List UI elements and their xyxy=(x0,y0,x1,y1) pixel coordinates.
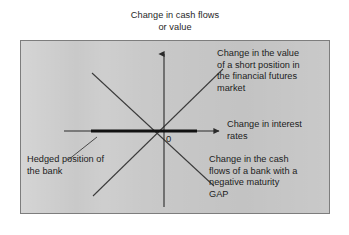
origin-label: 0 xyxy=(166,134,171,144)
plot-panel: 0 Change in the value of a short positio… xyxy=(20,40,330,214)
annotation-hedged-line-2: the bank xyxy=(27,166,104,178)
annotation-futures-line-2: of a short position in xyxy=(217,60,300,72)
annotation-gap-line-4: GAP xyxy=(209,189,297,201)
chart-title: Change in cash flows or value xyxy=(20,9,330,34)
chart-title-line-1: Change in cash flows xyxy=(20,9,330,21)
annotation-futures-line-3: the financial futures xyxy=(217,71,300,83)
annotation-gap: Change in the cash flows of a bank with … xyxy=(209,154,297,200)
annotation-futures: Change in the value of a short position … xyxy=(217,48,300,94)
x-axis-label-line-2: rates xyxy=(227,131,302,143)
annotation-gap-line-3: negative maturity xyxy=(209,177,297,189)
annotation-futures-line-4: market xyxy=(217,83,300,95)
annotation-gap-line-1: Change in the cash xyxy=(209,154,297,166)
annotation-hedged: Hedged position of the bank xyxy=(27,154,104,177)
x-axis-label-line-1: Change in interest xyxy=(227,119,302,131)
chart-title-line-2: or value xyxy=(20,21,330,33)
x-axis-label: Change in interest rates xyxy=(227,119,302,142)
annotation-hedged-line-1: Hedged position of xyxy=(27,154,104,166)
figure-canvas: Change in cash flows or value xyxy=(0,0,349,235)
annotation-futures-line-1: Change in the value xyxy=(217,48,300,60)
annotation-gap-line-2: flows of a bank with a xyxy=(209,166,297,178)
